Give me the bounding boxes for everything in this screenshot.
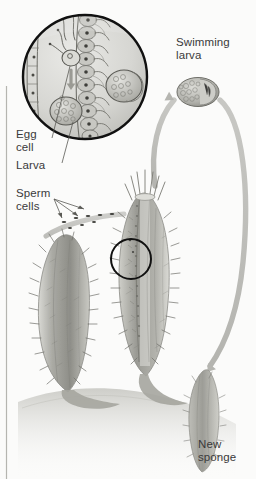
label-egg-cell: Egg cell bbox=[16, 128, 37, 154]
illustration-canvas bbox=[0, 0, 256, 479]
label-sperm-cells: Sperm cells bbox=[16, 187, 50, 213]
larva-settle-arrow bbox=[210, 100, 246, 366]
label-swimming-larva: Swimming larva bbox=[176, 36, 230, 62]
magnified-inset bbox=[23, 11, 147, 144]
sperm-stream-arrow bbox=[46, 214, 124, 236]
larva-release-arrow bbox=[154, 100, 174, 186]
right-sponge bbox=[110, 170, 188, 405]
label-larva: Larva bbox=[16, 159, 45, 172]
embryo-cluster bbox=[106, 70, 143, 102]
sponge-life-cycle-figure: Egg cell Larva Sperm cells Swimming larv… bbox=[0, 0, 256, 479]
label-new-sponge: New sponge bbox=[198, 438, 236, 464]
left-sponge bbox=[29, 229, 120, 409]
egg-cell bbox=[62, 50, 80, 66]
swimming-larva-blob bbox=[177, 78, 219, 107]
